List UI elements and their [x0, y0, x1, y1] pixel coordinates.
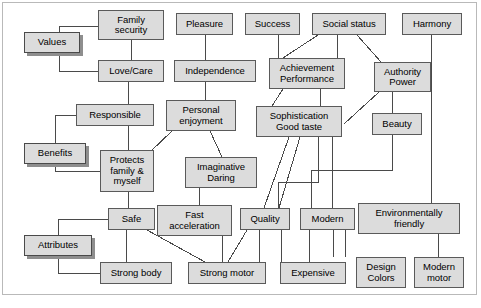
node-social-status[interactable]: Social status	[312, 13, 386, 35]
node-protects-family-myself[interactable]: Protectsfamily &myself	[100, 150, 154, 192]
level-label-attributes[interactable]: Attributes	[24, 235, 92, 256]
node-label-line2: acceleration	[167, 221, 222, 232]
level-label-text: Benefits	[36, 148, 74, 159]
node-expensive[interactable]: Expensive	[280, 262, 346, 284]
node-label: Responsible	[87, 110, 143, 121]
node-label-line1: Imaginative	[195, 162, 247, 173]
level-label-benefits[interactable]: Benefits	[24, 143, 86, 164]
node-label: Modern	[310, 214, 346, 225]
node-achievement-performance[interactable]: AchievementPerformance	[269, 58, 345, 89]
bracket-benefits-protects	[55, 164, 100, 171]
node-label: Expensive	[289, 268, 336, 279]
node-fast-acceleration[interactable]: Fastacceleration	[157, 205, 232, 236]
node-harmony[interactable]: Harmony	[402, 13, 462, 35]
node-independence[interactable]: Independence	[174, 60, 256, 82]
node-label-line1: Design	[364, 262, 397, 273]
node-strong-motor[interactable]: Strong motor	[188, 262, 266, 284]
node-modern[interactable]: Modern	[300, 208, 355, 230]
node-label: Love/Care	[107, 66, 154, 77]
node-label-line1: Fast	[167, 210, 222, 221]
node-label: Harmony	[411, 19, 453, 30]
node-imaginative-daring[interactable]: ImaginativeDaring	[185, 157, 257, 188]
node-label-line3: myself	[108, 176, 146, 187]
node-label-line1: Environmentally	[374, 208, 445, 219]
node-label-line2: enjoyment	[177, 116, 224, 127]
link-sophistication-quality	[264, 137, 289, 208]
node-beauty[interactable]: Beauty	[372, 113, 422, 135]
level-label-values[interactable]: Values	[24, 32, 80, 53]
node-label-line2: motor	[421, 273, 457, 284]
node-love-care[interactable]: Love/Care	[98, 60, 164, 82]
node-label: Success	[253, 19, 293, 30]
link-beauty-modern	[311, 135, 392, 208]
node-label-line2: friendly	[374, 219, 445, 230]
bracket-attributes-safe	[58, 219, 108, 235]
node-success[interactable]: Success	[245, 13, 300, 35]
diagram-canvas: Familysecurity Pleasure Success Social s…	[0, 0, 481, 308]
node-environmentally-friendly[interactable]: Environmentallyfriendly	[358, 203, 460, 234]
node-label-line2: Good taste	[268, 122, 330, 133]
link-personal-enjoyment-protects	[150, 131, 172, 152]
node-label: Social status	[320, 19, 377, 30]
level-label-text: Attributes	[36, 240, 80, 251]
node-family-security[interactable]: Familysecurity	[98, 10, 164, 40]
node-label-line2: Colors	[364, 273, 397, 284]
link-social-status-achievement-diagonal	[283, 35, 318, 58]
node-label-line1: Sophistication	[268, 111, 330, 122]
node-label-line2: security	[113, 25, 149, 36]
node-label-line2: Power	[382, 77, 423, 88]
node-label: Strong body	[109, 268, 164, 279]
node-label: Beauty	[380, 119, 413, 130]
node-label: Pleasure	[184, 19, 225, 30]
link-personal-enjoyment-imaginative	[210, 131, 222, 157]
node-label: Strong motor	[198, 268, 256, 279]
bracket-benefits-responsible	[55, 115, 76, 143]
node-pleasure[interactable]: Pleasure	[176, 13, 233, 35]
node-label-line1: Modern	[421, 262, 457, 273]
node-label-line1: Achievement	[278, 63, 336, 74]
link-sophistication-modern-diagonal	[279, 137, 300, 208]
node-label-line2: Performance	[278, 74, 336, 85]
node-authority-power[interactable]: AuthorityPower	[374, 62, 431, 92]
node-modern-motor[interactable]: Modernmotor	[414, 257, 464, 288]
link-sophistication-modern-elbow	[278, 137, 318, 208]
node-sophistication-good-taste[interactable]: SophisticationGood taste	[256, 106, 342, 137]
node-quality[interactable]: Quality	[240, 208, 290, 230]
node-label: Independence	[183, 66, 247, 77]
level-label-text: Values	[36, 37, 68, 48]
node-design-colors[interactable]: DesignColors	[356, 257, 406, 288]
node-label-line2: Daring	[195, 173, 247, 184]
node-safe[interactable]: Safe	[108, 208, 155, 230]
node-label: Safe	[120, 214, 143, 225]
bracket-attributes-strong-body	[58, 256, 100, 273]
node-responsible[interactable]: Responsible	[76, 104, 154, 126]
node-label: Quality	[248, 214, 281, 225]
link-achievement-sophistication-diagonal	[272, 89, 283, 106]
bracket-values-love-care	[59, 53, 98, 71]
node-personal-enjoyment[interactable]: Personalenjoyment	[166, 100, 236, 131]
link-social-status-authority-power	[357, 35, 381, 62]
node-label-line1: Personal	[177, 105, 224, 116]
node-strong-body[interactable]: Strong body	[100, 262, 172, 284]
